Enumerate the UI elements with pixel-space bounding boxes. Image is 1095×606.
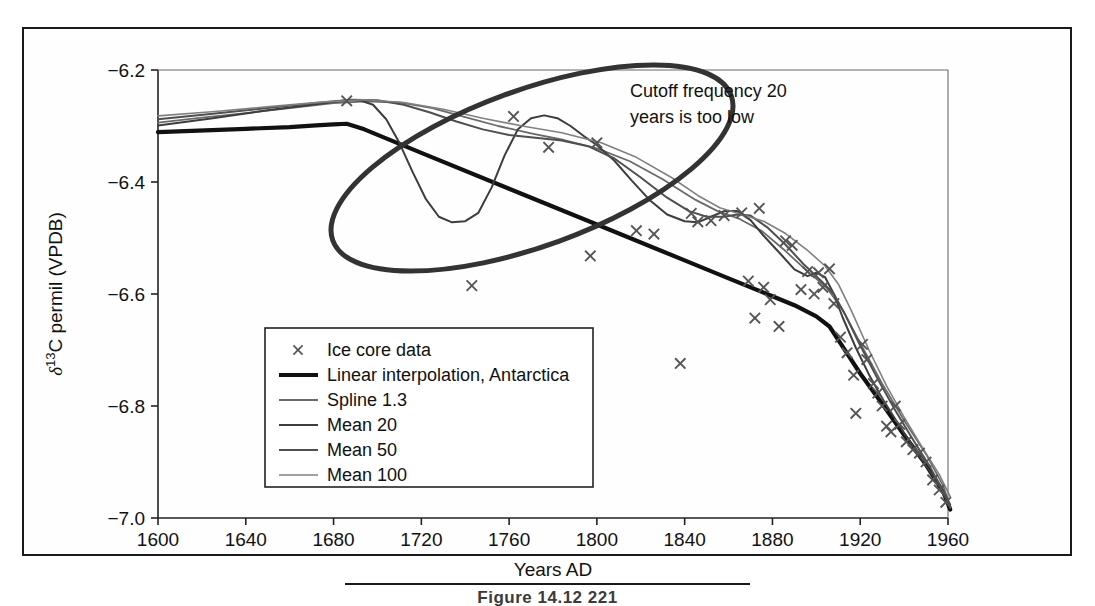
data-point <box>754 203 764 213</box>
x-tick-label: 1600 <box>137 529 179 550</box>
highlight-ellipse-shape <box>306 22 758 314</box>
x-tick-label: 1680 <box>312 529 354 550</box>
x-tick-label: 1640 <box>225 529 267 550</box>
data-point <box>787 240 797 250</box>
y-tick-label: −6.6 <box>107 284 145 305</box>
data-point <box>750 313 760 323</box>
data-point <box>774 321 784 331</box>
y-axis-title: δ13C permil (VPDB) <box>43 212 67 376</box>
x-tick-label: 1800 <box>576 529 618 550</box>
annotation-line: Cutoff frequency 20 <box>630 81 787 101</box>
data-point <box>467 280 477 290</box>
figure-caption: Figure 14.12 221 <box>0 588 1095 606</box>
data-point <box>675 358 685 368</box>
data-point <box>508 111 518 121</box>
data-point <box>543 142 553 152</box>
x-tick-label: 1880 <box>751 529 793 550</box>
y-tick-label: −6.4 <box>107 172 145 193</box>
legend-label: Linear interpolation, Antarctica <box>327 365 570 385</box>
data-point <box>848 370 858 380</box>
figure-container: 1600164016801720176018001840188019201960… <box>0 0 1095 606</box>
data-point <box>796 284 806 294</box>
caption-rule <box>345 583 750 585</box>
x-tick-label: 1760 <box>488 529 530 550</box>
data-point <box>851 408 861 418</box>
legend-label: Mean 100 <box>327 465 407 485</box>
data-point <box>649 229 659 239</box>
legend-label: Mean 50 <box>327 440 397 460</box>
annotation-line: years is too low <box>630 107 755 127</box>
x-tick-label: 1840 <box>664 529 706 550</box>
y-tick-label: −7.0 <box>107 508 145 529</box>
legend-label: Ice core data <box>327 340 432 360</box>
y-tick-label: −6.8 <box>107 396 145 417</box>
x-tick-label: 1720 <box>400 529 442 550</box>
y-tick-label: −6.2 <box>107 60 145 81</box>
legend-label: Spline 1.3 <box>327 390 407 410</box>
data-point <box>631 226 641 236</box>
annotation-text: Cutoff frequency 20years is too low <box>630 81 787 127</box>
data-point <box>585 251 595 261</box>
legend-label: Mean 20 <box>327 415 397 435</box>
highlight-ellipse <box>306 22 758 314</box>
data-point <box>809 289 819 299</box>
chart-legend: Ice core dataLinear interpolation, Antar… <box>265 328 593 487</box>
x-axis-title: Years AD <box>514 559 593 580</box>
x-tick-label: 1920 <box>839 529 881 550</box>
x-tick-label: 1960 <box>927 529 969 550</box>
data-point <box>886 427 896 437</box>
chart-plot: 1600164016801720176018001840188019201960… <box>0 0 1095 606</box>
